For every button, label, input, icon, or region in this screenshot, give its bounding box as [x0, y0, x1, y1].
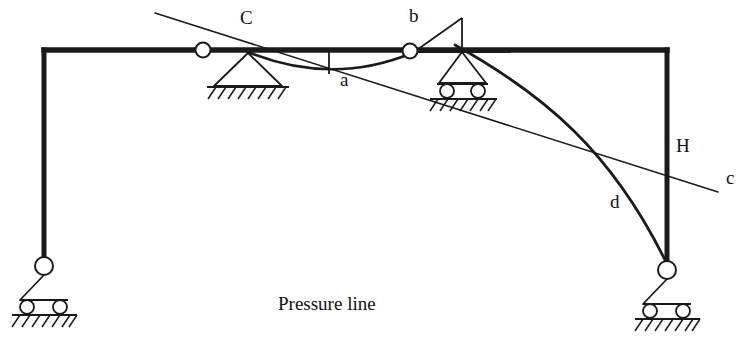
label-curve-a: a: [340, 70, 348, 89]
internal-hinge-left: [196, 43, 211, 58]
figure-caption: Pressure line: [278, 294, 376, 313]
frame-structure: [44, 50, 667, 262]
support-roller-b: [414, 18, 511, 111]
label-curve-c: c: [726, 168, 734, 187]
support-pinned-c: [207, 53, 289, 99]
pressure-line-sag-curve: [248, 52, 412, 74]
label-node-b: b: [409, 6, 419, 25]
support-roller-base-left: [12, 257, 77, 327]
pressure-line-figure: C b H a c d Pressure line: [0, 0, 743, 362]
hatching-b: [430, 99, 496, 111]
hatching-c: [208, 87, 286, 99]
support-roller-base-right: [635, 261, 700, 331]
pressure-line-descending-curve: [455, 45, 666, 262]
internal-hinge-right: [403, 44, 418, 59]
label-node-h: H: [676, 136, 690, 155]
hatching-base-right: [635, 319, 700, 331]
label-node-c: C: [240, 8, 253, 27]
label-curve-d: d: [610, 192, 620, 211]
hatching-base-left: [12, 315, 77, 327]
